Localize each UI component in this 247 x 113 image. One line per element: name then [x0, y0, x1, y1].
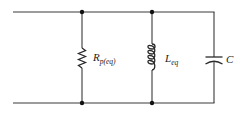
capacitor-label-main: C: [226, 53, 233, 65]
resistor-icon: [79, 48, 86, 68]
resistor-label-main: R: [93, 51, 100, 63]
node-dot-top-2: [150, 10, 154, 14]
resistor-branch: [79, 12, 86, 103]
inductor-label: Leq: [165, 53, 178, 64]
node-dot-bottom-1: [80, 101, 84, 105]
node-dot-top-1: [80, 10, 84, 14]
capacitor-label: C: [226, 54, 233, 65]
resistor-label: Rp(eq): [93, 52, 116, 63]
parallel-rlc-circuit: [0, 0, 247, 113]
inductor-icon: [148, 44, 155, 70]
resistor-label-sub: p(eq): [100, 57, 116, 66]
inductor-branch: [148, 12, 155, 103]
capacitor-branch: [206, 12, 223, 103]
inductor-label-sub: eq: [171, 58, 178, 67]
node-dot-bottom-2: [150, 101, 154, 105]
